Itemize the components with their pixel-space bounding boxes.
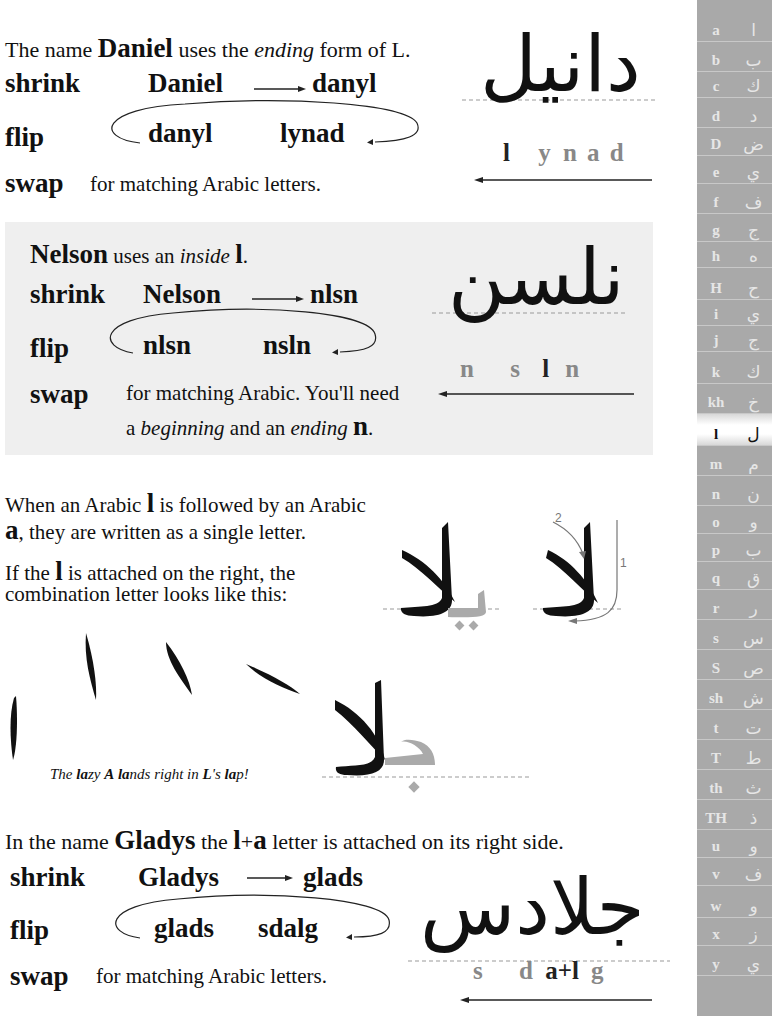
flip-to: nsln (263, 332, 311, 359)
letter-d: d (519, 957, 533, 984)
swap-label: swap (10, 963, 69, 990)
sidebar-row-k: kك (697, 352, 772, 384)
arabic-letter: ج (735, 220, 772, 241)
nelson-intro: Nelson uses an inside l. (30, 241, 248, 268)
latin-letter: l (697, 426, 735, 445)
daniel-intro: The name Daniel uses the ending form of … (5, 35, 411, 62)
arabic-letter: ق (735, 568, 772, 589)
emphasis-ending: ending (290, 416, 347, 440)
sidebar-row-a: aا (697, 12, 772, 42)
latin-letter: u (697, 838, 735, 857)
intro-emphasis: inside (180, 244, 230, 268)
shrink-to: glads (303, 864, 363, 891)
swap-label: swap (30, 381, 89, 408)
shrink-from: Gladys (138, 864, 219, 891)
arabic-letter: م (735, 454, 772, 475)
arabic-letter: ف (735, 192, 772, 213)
arabic-letter: ك (735, 76, 772, 97)
letter-d: d (610, 139, 624, 166)
latin-letter: i (697, 306, 735, 325)
latin-letter: s (697, 630, 735, 649)
name-nelson: Nelson (30, 239, 108, 269)
letter-s: s (473, 957, 483, 984)
arabic-letter: ف (735, 864, 772, 885)
sidebar-row-i: iي (697, 300, 772, 326)
sidebar-row-TH: THذ (697, 800, 772, 830)
letter-n: n (563, 139, 577, 166)
arabic-letter: ذ (735, 808, 772, 829)
text: + (241, 829, 253, 854)
intro-text: The name (5, 37, 98, 62)
sidebar-row-o: oو (697, 506, 772, 534)
arabic-letter: ز (735, 924, 772, 945)
latin-letter: H (697, 280, 735, 299)
letter-l: l (542, 355, 549, 382)
latin-letter: d (697, 108, 735, 127)
latin-letter: S (697, 660, 735, 679)
sidebar-row-q: qق (697, 562, 772, 590)
sidebar-row-g: gج (697, 214, 772, 242)
letter-l: l (233, 825, 241, 855)
letter-l: l (235, 239, 243, 269)
stroke-order-arrows-icon (545, 510, 635, 630)
shrink-label: shrink (10, 864, 85, 891)
shrink-from: Daniel (148, 70, 223, 97)
sidebar-row-H: Hح (697, 268, 772, 300)
flip-label: flip (5, 124, 44, 151)
text: la (118, 766, 130, 782)
latin-letter: b (697, 52, 735, 71)
letter-combo-a-l: a+l (545, 957, 579, 984)
swap-text: for matching Arabic letters. (96, 966, 327, 987)
lam-alef-para1-line1: When an Arabic l is followed by an Arabi… (5, 490, 366, 517)
intro-emphasis: ending (254, 37, 314, 62)
arrow-right-icon (245, 873, 293, 883)
lam-alef-para2-line1: If the l is attached on the right, the (5, 558, 295, 585)
latin-letter: p (697, 542, 735, 561)
lam-alef-para2-line2: combination letter looks like this: (5, 584, 287, 605)
flip-label: flip (30, 335, 69, 362)
latin-letter: q (697, 570, 735, 589)
text: and an (225, 416, 291, 440)
arabic-letter: ح (735, 278, 772, 299)
latin-letter: x (697, 926, 735, 945)
latin-letter: m (697, 456, 735, 475)
text: L (203, 766, 212, 782)
letter-a: a (5, 515, 19, 545)
arabic-letter: س (735, 628, 772, 649)
latin-letter: h (697, 248, 735, 267)
letter-y: y (538, 139, 551, 166)
shrink-label: shrink (5, 70, 80, 97)
arabic-letter: ي (735, 162, 772, 183)
arabic-letter: و (735, 836, 772, 857)
text: a (126, 416, 141, 440)
letter-g: g (591, 957, 604, 984)
arrow-right-icon (252, 84, 307, 94)
shrink-from: Nelson (143, 281, 221, 308)
latin-letter: TH (697, 810, 735, 829)
falling-alef-sequence (0, 630, 340, 780)
latin-letter: T (697, 750, 735, 769)
gladys-intro: In the name Gladys the l+a letter is att… (5, 827, 564, 854)
text: letter is attached on its right side. (267, 829, 564, 854)
sidebar-row-w: wو (697, 886, 772, 918)
arabic-letter: و (735, 512, 772, 533)
text: la (225, 766, 237, 782)
text: A (104, 766, 114, 782)
text: zy (88, 766, 104, 782)
arabic-gladys: جلادس (420, 868, 645, 946)
sidebar-row-D: Dض (697, 128, 772, 156)
text: nds right in (130, 766, 203, 782)
arabic-letter: ج (735, 330, 772, 351)
swap-text-line2: a beginning and an ending n. (126, 413, 373, 440)
latin-letter: th (697, 780, 735, 799)
latin-letter: v (697, 866, 735, 885)
letter-n: n (460, 355, 474, 382)
latin-letter: k (697, 364, 735, 383)
arabic-letter: ي (735, 954, 772, 975)
text: , they are written as a single letter. (19, 520, 306, 544)
latin-letter: w (697, 898, 735, 917)
arabic-letter: ب (735, 50, 772, 71)
text: The (50, 766, 76, 782)
sidebar-row-e: eي (697, 156, 772, 184)
flip-to: lynad (280, 120, 345, 147)
